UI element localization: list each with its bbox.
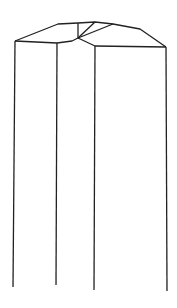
vertical-edge <box>94 46 95 290</box>
facet-line <box>78 22 95 38</box>
prism-line-drawing <box>0 0 177 308</box>
facet-line <box>78 24 113 38</box>
vertical-edge <box>13 41 15 287</box>
vertical-edge <box>56 43 57 285</box>
vertical-edge <box>166 47 167 291</box>
inner-edge <box>15 38 166 47</box>
